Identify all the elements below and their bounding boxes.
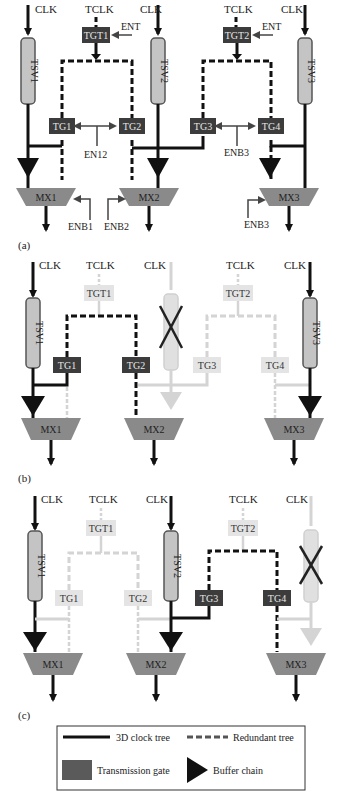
svg-text:TG1: TG1 [58,360,76,371]
svg-text:TSV2: TSV2 [172,554,183,578]
panel-label: (c) [18,709,31,722]
tgt2-gate: TGT2 [223,27,251,43]
svg-text:MX2: MX2 [145,659,166,670]
tg4-gate: TG4 [263,590,291,606]
tgt1-gate: TGT1 [82,27,110,43]
tsv-fault-tolerant-clock-diagram: CLK CLK CLK TSV1 TSV2 TSV3 TCLK TCLK TGT… [0,0,340,808]
panel-b: CLK TCLK CLK TCLK CLK TSV1 TSV3 TGT [18,259,324,485]
enb1-label: ENB1 [68,221,93,232]
enb3-arrow [248,200,264,218]
svg-text:TSV1: TSV1 [29,59,40,83]
legend-redundant-tree: Redundant tree [233,732,294,743]
svg-text:TG4: TG4 [262,121,280,132]
ent-label: ENT [262,21,281,32]
tgt2-gate: TGT2 [223,285,253,301]
tclk-label: TCLK [224,3,253,15]
tg3-gate: TG3 [195,590,223,606]
svg-text:TGT1: TGT1 [84,30,108,41]
buffer-chain-icon [259,158,281,178]
clk-label: CLK [35,3,57,15]
svg-text:TG4: TG4 [266,360,284,371]
tg3-gate: TG3 [190,118,216,134]
svg-text:MX3: MX3 [283,424,304,435]
failed-tsv2 [160,262,182,410]
tsv2: TSV2 [151,38,170,104]
tg1-gate: TG1 [49,118,75,134]
svg-text:TGT1: TGT1 [89,523,113,534]
tg4-gate: TG4 [258,118,284,134]
svg-text:TGT2: TGT2 [225,30,249,41]
clk-label: CLK [140,3,162,15]
tg3-gate: TG3 [193,357,221,373]
tg4-gate: TG4 [261,357,289,373]
mx2-mux: MX2 [124,418,184,440]
mx1-mux: MX1 [23,653,83,675]
tgt1-gate: TGT1 [84,285,114,301]
svg-text:MX3: MX3 [285,659,306,670]
svg-text:CLK: CLK [39,259,61,271]
svg-text:CLK: CLK [41,493,63,505]
svg-text:TSV1: TSV1 [36,554,47,578]
svg-text:TG2: TG2 [123,121,141,132]
buffer-chain-icon [298,396,322,416]
svg-text:CLK: CLK [146,493,168,505]
svg-text:TG2: TG2 [127,360,145,371]
svg-text:TSV3: TSV3 [311,321,322,345]
mx1-mux: MX1 [16,188,76,206]
svg-text:TG3: TG3 [200,593,218,604]
buffer-chain-icon [147,158,169,178]
mx3-mux: MX3 [264,418,324,440]
enb2-arrow [108,199,124,220]
active-redundant-tree [209,551,277,590]
ent-label: ENT [121,21,140,32]
svg-text:TSV2: TSV2 [159,59,170,83]
redundant-tree-2 [203,61,271,118]
tg2-gate: TG2 [119,118,145,134]
svg-text:TCLK: TCLK [86,259,115,271]
mx3-mux: MX3 [266,653,326,675]
enb3-label: ENB3 [244,219,269,230]
svg-text:MX1: MX1 [42,659,63,670]
svg-text:TG4: TG4 [268,593,286,604]
svg-text:TG1: TG1 [60,593,78,604]
en12-label: EN12 [84,149,107,160]
transmission-gate-swatch [62,760,92,780]
tg1-gate: TG1 [53,357,81,373]
svg-text:TG1: TG1 [53,121,71,132]
buffer-chain-icon [17,158,39,178]
tsv1: TSV1 [28,531,47,601]
svg-text:MX3: MX3 [278,192,299,203]
tsv3: TSV3 [303,298,322,368]
svg-text:CLK: CLK [144,259,166,271]
legend-transmission-gate: Transmission gate [97,765,170,776]
svg-text:TG2: TG2 [129,593,147,604]
svg-text:MX1: MX1 [40,424,61,435]
tsv3: TSV3 [298,38,317,104]
clk-label: CLK [281,3,303,15]
panel-c: CLK TCLK CLK TCLK CLK TSV1 TSV2 TGT [18,493,326,722]
svg-text:TCLK: TCLK [89,493,118,505]
svg-text:MX2: MX2 [138,192,159,203]
tgt2-gate: TGT2 [228,520,258,536]
tg2-gate: TG2 [122,357,150,373]
tgt1-gate: TGT1 [86,520,116,536]
failed-tsv3 [300,496,322,646]
enb2-label: ENB2 [104,221,129,232]
svg-text:TSV3: TSV3 [306,59,317,83]
buffer-chain-icon [159,632,183,651]
svg-text:MX1: MX1 [35,192,56,203]
active-redundant-tree [67,316,136,357]
svg-text:TCLK: TCLK [229,493,258,505]
svg-text:TGT2: TGT2 [226,288,250,299]
svg-text:TGT2: TGT2 [231,523,255,534]
tsv1: TSV1 [21,38,40,104]
mx2-mux: MX2 [119,188,179,206]
buffer-chain-icon [23,632,47,651]
panel-a: CLK CLK CLK TSV1 TSV2 TSV3 TCLK TCLK TGT… [16,3,319,252]
panel-label: (a) [18,239,31,252]
mx3-mux: MX3 [259,188,319,206]
enb3-label: ENB3 [224,147,249,158]
legend: 3D clock tree Redundant tree Transmissio… [57,726,305,790]
tsv2: TSV2 [164,531,183,601]
legend-clock-tree: 3D clock tree [116,732,170,743]
